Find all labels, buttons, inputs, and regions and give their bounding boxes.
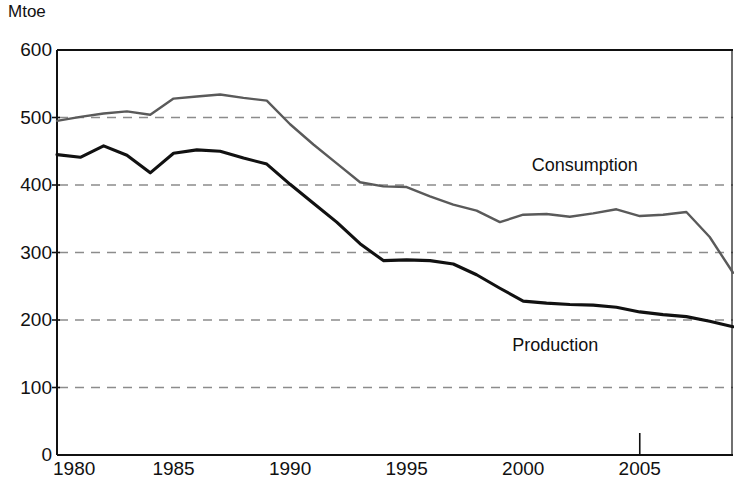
series-label-production: Production [512,335,598,355]
y-axis-tick-200: 200 [4,310,52,329]
y-axis-tick-500: 500 [4,108,52,127]
x-axis-tick-2000: 2000 [500,459,546,479]
series-label-consumption: Consumption [532,155,638,175]
y-axis-tick-100: 100 [4,378,52,397]
energy-production-consumption-chart: Mtoe 6005004003002001000 198019851990199… [0,0,734,484]
x-axis-tick-2005: 2005 [617,459,663,479]
y-axis-tick-0: 0 [4,445,52,464]
x-axis-tick-1990: 1990 [267,459,313,479]
x-axis-tick-1985: 1985 [151,459,197,479]
y-axis-tick-labels: 6005004003002001000 [0,0,52,484]
y-axis-tick-600: 600 [4,40,52,59]
x-axis-tick-1995: 1995 [384,459,430,479]
y-axis-tick-400: 400 [4,175,52,194]
x-axis-tick-1980: 1980 [53,459,99,479]
y-axis-tick-300: 300 [4,243,52,262]
plot-area [0,0,734,484]
data-series-lines [57,95,733,327]
